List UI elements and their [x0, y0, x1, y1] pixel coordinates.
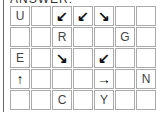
- arrow-up-icon: ↑: [10, 69, 30, 89]
- grid-cell-empty: [31, 6, 51, 26]
- grid-cell-letter: R: [52, 27, 72, 47]
- grid-cell-empty: [31, 69, 51, 89]
- grid-cell-letter: U: [10, 6, 30, 26]
- grid-cell-letter: G: [115, 27, 135, 47]
- grid-cell-empty: [52, 69, 72, 89]
- grid-cell-empty: [94, 27, 114, 47]
- grid-cell-letter: E: [10, 48, 30, 68]
- grid-cell-empty: [31, 27, 51, 47]
- grid-cell-empty: [73, 69, 93, 89]
- grid-cell-empty: [115, 90, 135, 110]
- grid-cell-empty: [73, 48, 93, 68]
- grid-cell-empty: [136, 48, 156, 68]
- grid-cell-empty: [136, 90, 156, 110]
- grid-cell-empty: [10, 90, 30, 110]
- arrow-down-right-icon: ↘: [52, 48, 72, 68]
- grid-cell-empty: [31, 90, 51, 110]
- grid-cell-empty: [115, 6, 135, 26]
- grid-cell-empty: [115, 48, 135, 68]
- grid-cell-empty: [136, 6, 156, 26]
- arrow-down-left-icon: ↙: [73, 6, 93, 26]
- left-border-rule: [3, 0, 4, 112]
- grid-cell-empty: [136, 27, 156, 47]
- puzzle-grid: U↙↙↘RGE↘↙↑→NCY: [10, 6, 156, 110]
- grid-cell-empty: [73, 90, 93, 110]
- grid-cell-letter: N: [136, 69, 156, 89]
- grid-cell-letter: C: [52, 90, 72, 110]
- grid-cell-empty: [115, 69, 135, 89]
- grid-cell-empty: [31, 48, 51, 68]
- arrow-down-left-icon: ↙: [52, 6, 72, 26]
- grid-cell-letter: Y: [94, 90, 114, 110]
- grid-cell-empty: [73, 27, 93, 47]
- arrow-right-icon: →: [94, 69, 114, 89]
- arrow-down-right-icon: ↘: [94, 6, 114, 26]
- arrow-down-left-icon: ↙: [94, 48, 114, 68]
- grid-cell-empty: [10, 27, 30, 47]
